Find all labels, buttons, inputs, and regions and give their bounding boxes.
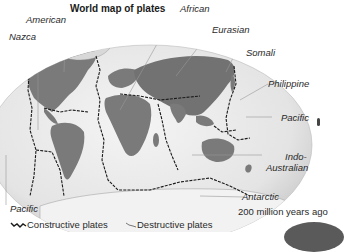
- map-title: World map of plates: [70, 3, 165, 14]
- label-philippine-plate: Philippine: [268, 79, 309, 89]
- label-african-plate: African: [180, 4, 210, 14]
- constructive-boundary-icon: [10, 221, 27, 229]
- label-indo-australian-plate-line1: Indo-: [285, 152, 307, 162]
- madagascar: [153, 133, 159, 147]
- label-indo-australian-plate-line2: Australian: [266, 163, 308, 173]
- legend-constructive: Constructive plates: [10, 219, 108, 230]
- edge-fragment: [317, 118, 320, 126]
- time-caption: 200 million years ago: [238, 206, 328, 217]
- label-american-plate: American: [26, 15, 66, 25]
- destructive-boundary-icon: [125, 221, 137, 229]
- label-somali-plate: Somali: [246, 48, 275, 58]
- label-pacific-plate-right: Pacific: [281, 113, 309, 123]
- label-nazca-plate: Nazca: [9, 32, 36, 42]
- label-pacific-plate-left: Pacific: [10, 204, 38, 214]
- next-globe-fragment: [284, 222, 344, 252]
- legend-destructive-label: Destructive plates: [137, 219, 213, 230]
- label-eurasian-plate: Eurasian: [212, 25, 250, 35]
- legend-constructive-label: Constructive plates: [27, 219, 108, 230]
- legend-destructive: Destructive plates: [125, 219, 213, 230]
- label-antarctic-plate: Antarctic: [242, 192, 279, 202]
